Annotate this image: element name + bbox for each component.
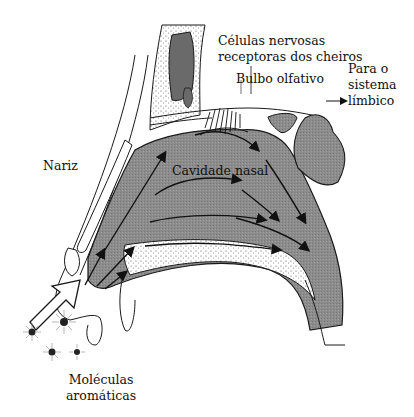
nasal-cavity-label: Cavidade nasal: [172, 163, 268, 179]
nostril: [65, 248, 80, 276]
limbic-label-line3: límbico: [348, 93, 394, 109]
inhale-arrow-icon: [30, 280, 80, 330]
olfactory-diagram: Células nervosas receptoras dos cheiros …: [0, 0, 414, 417]
olfactory-bulb-label: Bulbo olfativo: [236, 71, 324, 87]
lip-outline: [70, 280, 135, 345]
nose-label: Nariz: [43, 158, 78, 174]
molecules-label-line1: Moléculas: [58, 372, 144, 388]
limbic-label-line2: sistema: [348, 77, 397, 93]
receptor-cells-label-line1: Células nervosas: [218, 33, 325, 49]
aromatic-molecules-icon: [23, 310, 85, 361]
limbic-label-line1: Para o: [348, 61, 388, 77]
molecules-label-line2: aromáticas: [58, 388, 144, 404]
frontal-bone: [150, 25, 205, 130]
receptor-cells-label-line2: receptoras dos cheiros: [218, 49, 362, 65]
